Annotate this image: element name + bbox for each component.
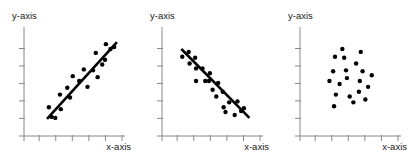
data-point — [187, 61, 191, 65]
data-point — [354, 61, 358, 65]
data-point — [68, 95, 72, 99]
data-point — [94, 51, 98, 55]
data-point — [358, 79, 362, 83]
data-point — [82, 67, 86, 71]
scatter-plot-figure: y-axisx-axis y-axisx-axis y-axisx-axis — [0, 0, 414, 163]
data-point — [180, 55, 184, 59]
data-point — [337, 82, 341, 86]
scatter-plot-negative-correlation: y-axisx-axis — [138, 0, 276, 163]
data-point — [360, 69, 364, 73]
data-point — [342, 56, 346, 60]
data-point — [193, 56, 197, 60]
data-point — [104, 42, 108, 46]
scatter-plot-positive-correlation: y-axisx-axis — [0, 0, 138, 163]
data-point — [194, 79, 198, 83]
data-point — [59, 107, 63, 111]
data-point — [351, 100, 355, 104]
scatter-plot-positive-correlation-canvas: y-axisx-axis — [0, 0, 138, 163]
trend-line — [181, 49, 249, 118]
data-point — [77, 79, 81, 83]
y-axis-label: y-axis — [12, 10, 37, 21]
scatter-plot-no-correlation-canvas: y-axisx-axis — [276, 0, 414, 163]
y-axis-label: y-axis — [288, 10, 313, 21]
data-point — [235, 99, 239, 103]
data-point — [359, 50, 363, 54]
scatter-plot-no-correlation: y-axisx-axis — [276, 0, 414, 163]
data-point — [233, 113, 237, 117]
data-point — [208, 71, 212, 75]
data-point — [112, 45, 116, 49]
y-axis-label: y-axis — [150, 10, 175, 21]
data-point — [363, 97, 367, 101]
data-point — [103, 57, 107, 61]
data-point — [344, 68, 348, 72]
x-axis-label: x-axis — [382, 141, 407, 152]
data-point — [334, 92, 338, 96]
data-point — [221, 105, 225, 109]
data-point — [223, 110, 227, 114]
data-point — [49, 115, 53, 119]
data-point-group — [327, 47, 374, 109]
scatter-plot-negative-correlation-canvas: y-axisx-axis — [138, 0, 276, 163]
data-point — [210, 88, 214, 92]
x-axis-label: x-axis — [106, 141, 131, 152]
data-point — [214, 94, 218, 98]
data-point — [348, 94, 352, 98]
data-point — [58, 92, 62, 96]
data-point — [100, 62, 104, 66]
trend-line — [47, 42, 117, 119]
data-point — [333, 55, 337, 59]
data-point — [85, 85, 89, 89]
data-point — [366, 85, 370, 89]
data-point — [242, 106, 246, 110]
data-point — [331, 69, 335, 73]
data-point — [370, 73, 374, 77]
data-point — [340, 47, 344, 51]
data-point — [345, 76, 349, 80]
data-point — [207, 79, 211, 83]
data-point — [194, 66, 198, 70]
data-point — [332, 104, 336, 108]
data-point — [95, 75, 99, 79]
data-point — [53, 116, 57, 120]
data-point — [187, 50, 191, 54]
data-point — [327, 79, 331, 83]
data-point — [227, 100, 231, 104]
data-point — [65, 86, 69, 90]
data-point-group — [180, 50, 246, 117]
data-point — [91, 68, 95, 72]
data-point — [47, 105, 51, 109]
data-point — [221, 89, 225, 93]
data-point — [357, 89, 361, 93]
x-axis-label: x-axis — [244, 141, 269, 152]
data-point — [200, 66, 204, 70]
data-point — [216, 81, 220, 85]
data-point — [71, 74, 75, 78]
